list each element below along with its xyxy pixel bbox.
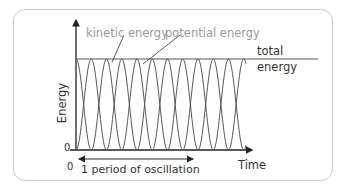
origin-y-label: 0 (64, 142, 70, 153)
period-label: 1 period of oscillation (81, 163, 200, 176)
potential-energy-label: potential energy (165, 26, 260, 40)
potential-energy-curve (76, 59, 246, 150)
total-energy-label-2: energy (257, 60, 297, 74)
y-axis-label: Energy (55, 83, 69, 123)
x-axis-label: Time (238, 158, 266, 172)
kinetic-energy-label: kinetic energy (86, 26, 168, 40)
total-energy-label-1: total (257, 44, 283, 58)
origin-x-label: 0 (67, 161, 73, 172)
